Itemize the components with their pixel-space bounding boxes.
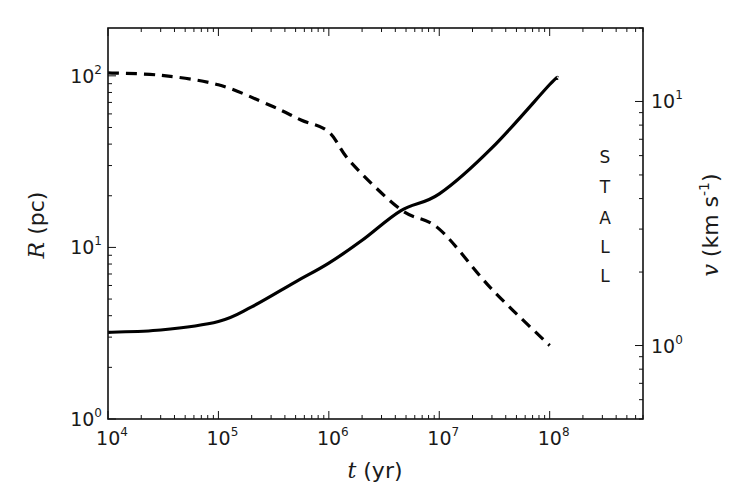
y-right-tick-label: 100 <box>651 333 683 357</box>
x-tick-label: 108 <box>538 425 570 449</box>
y-left-tick-labels: 100101102 <box>70 63 102 430</box>
x-tick-label: 107 <box>427 425 459 449</box>
x-tick-label: 106 <box>317 425 349 449</box>
y-right-tick-label: 101 <box>651 88 683 112</box>
stall-letter: T <box>599 177 611 197</box>
x-tick-label: 105 <box>207 425 239 449</box>
y-left-tick-label: 101 <box>70 234 102 258</box>
x-axis-label: t (yr) <box>347 458 402 483</box>
y-right-tick-labels: 100101 <box>651 88 683 356</box>
plot-frame <box>108 28 643 419</box>
minor-ticks <box>108 28 643 419</box>
series-layer <box>108 73 558 346</box>
stall-letter: A <box>599 208 611 228</box>
y-right-axis-label: v (km s-1) <box>696 173 723 276</box>
velocity-dashed-line <box>108 73 550 346</box>
radius-solid-line <box>108 77 558 332</box>
x-tick-labels: 104105106107108 <box>96 425 570 449</box>
stall-letter: S <box>600 147 611 167</box>
stall-letter: L <box>600 237 610 257</box>
y-left-axis-label: R (pc) <box>24 192 49 260</box>
stall-letter: L <box>600 266 610 286</box>
chart-canvas: 104105106107108 100101102 100101 STALL t… <box>0 0 737 499</box>
y-left-tick-label: 102 <box>70 63 102 87</box>
major-ticks <box>108 28 643 419</box>
x-tick-label: 104 <box>96 425 128 449</box>
stall-annotation: STALL <box>599 147 611 286</box>
